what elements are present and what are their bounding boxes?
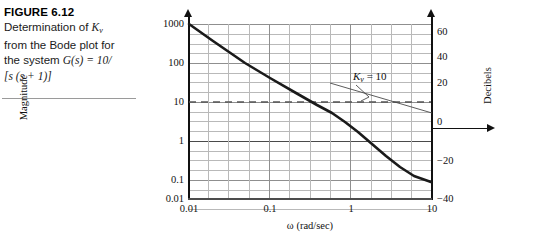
y-axis-left-title: Magnitude [18,58,29,138]
xtick-10: 10 [411,203,453,214]
gridline-v-minor [330,24,331,199]
ytick-right-0: 0 [437,116,442,127]
gridline-v-1 [350,24,351,199]
ytick-right-n20: −20 [437,155,453,166]
ytick-left-0p1: 0.1 [148,174,184,185]
x-axis-spine [188,198,432,199]
gridline-v-minor [249,24,250,199]
gridline-v-minor [310,24,311,199]
zero-db-reference-line [432,128,488,129]
y-axis-right-arrow-icon [427,9,435,17]
gridline-v-minor [289,24,290,199]
y-axis-right-title: Decibels [482,51,493,121]
zero-db-arrow-icon [487,124,495,132]
y-axis-right-spine [431,14,433,200]
ytick-right-20: 20 [437,77,448,88]
xtick-1: 1 [330,203,372,214]
ytick-left-100: 100 [148,57,184,68]
xtick-0p01: 0.01 [168,203,210,214]
y-axis-left-arrow-icon [184,9,192,17]
ytick-right-60: 60 [437,26,448,37]
ytick-left-10: 10 [148,96,184,107]
gridline-v-minor [208,24,209,199]
ytick-left-1000: 1000 [148,18,184,29]
gridline-v-minor [411,24,412,199]
kv-equals-value: = 10 [367,70,387,82]
xtick-0p1: 0.1 [249,203,291,214]
gridline-v-minor [391,24,392,199]
y-axis-left-spine [188,14,190,200]
gridline-v-0p1 [269,24,270,199]
gridline-h-minor [188,209,432,210]
ytick-left-1: 1 [148,135,184,146]
gridline-v-minor [228,24,229,199]
x-axis-title: ω (rad/sec) [250,220,370,231]
ytick-right-40: 40 [437,51,448,62]
plot-grid-area [188,24,432,199]
gridline-v-minor [371,24,372,199]
bode-magnitude-plot: Kv = 10 1000 100 10 1 0.1 0.01 60 40 20 … [0,0,540,241]
kv-subscript: v [360,75,364,84]
kv-annotation-label: Kv = 10 [353,70,387,84]
